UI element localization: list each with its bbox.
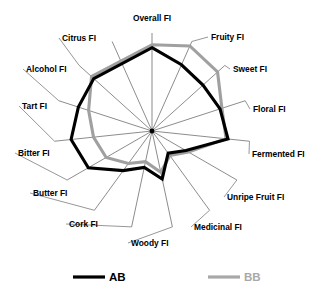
radar-axis-label: Tart FI (22, 101, 47, 111)
radar-axis-label: Overall FI (133, 13, 171, 23)
radar-label-leader (192, 37, 208, 41)
radar-axis-label: Citrus FI (62, 33, 96, 43)
radar-axis-spoke (152, 101, 245, 131)
legend-label-ab: AB (109, 271, 126, 283)
radar-label-leader (225, 65, 230, 69)
radar-label-leader (19, 106, 55, 141)
radar-chart-svg: Overall FIFruity FISweet FIFloral FIFerm… (0, 0, 327, 296)
radar-chart-container: Overall FIFruity FISweet FIFloral FIFerm… (0, 0, 327, 296)
radar-axis-label: Sweet FI (233, 64, 267, 74)
radar-axis-label: Fermented FI (252, 149, 305, 159)
radar-axis-label: Floral FI (253, 104, 286, 114)
radar-axis-label: Fruity FI (211, 32, 244, 42)
radar-center-point (150, 129, 155, 134)
series-polygon-ab (71, 48, 228, 179)
radar-axis-label: Woody FI (131, 238, 169, 248)
radar-axis-label: Cork FI (69, 219, 98, 229)
radar-axis-labels: Overall FIFruity FISweet FIFloral FIFerm… (18, 13, 305, 248)
radar-axis-label: Alcohol FI (26, 64, 66, 74)
radar-axis-spoke (152, 41, 192, 131)
legend-label-bb: BB (244, 271, 261, 283)
chart-legend: AB BB (73, 271, 261, 283)
radar-axis-label: Bitter FI (18, 148, 50, 158)
series-polygon-bb (89, 45, 226, 172)
radar-axis-label: Medicinal FI (194, 222, 242, 232)
radar-axis-label: Unripe Fruit FI (227, 192, 284, 202)
radar-axis-label: Butter FI (33, 188, 67, 198)
radar-label-leader (245, 101, 250, 109)
